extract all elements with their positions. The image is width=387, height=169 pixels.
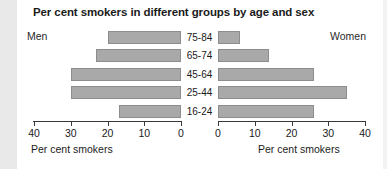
left-axis-tick: [108, 121, 109, 126]
bar-women-16-24: [218, 105, 314, 118]
right-axis-tick: [292, 121, 293, 126]
chart-figure: Per cent smokers in different groups by …: [0, 0, 387, 169]
chart-row: 45-64: [0, 66, 387, 84]
right-axis-tick: [255, 121, 256, 126]
right-axis-tick-label: 40: [359, 127, 371, 139]
bar-women-75-84: [218, 31, 240, 44]
bar-men-75-84: [108, 31, 182, 44]
right-axis-tick-label: 20: [286, 127, 298, 139]
left-axis-tick-label: 30: [65, 127, 77, 139]
bar-women-45-64: [218, 68, 314, 81]
left-axis-tick: [181, 121, 182, 126]
left-axis-tick-label: 0: [178, 127, 184, 139]
right-axis-tick: [218, 121, 219, 126]
bar-men-25-44: [71, 86, 181, 99]
age-group-label: 75-84: [183, 31, 216, 44]
right-axis-tick-label: 30: [322, 127, 334, 139]
bar-men-45-64: [71, 68, 181, 81]
left-axis-tick: [144, 121, 145, 126]
bar-women-65-74: [218, 49, 269, 62]
right-axis-caption: Per cent smokers: [258, 143, 340, 155]
right-axis-tick-label: 10: [249, 127, 261, 139]
age-group-label: 25-44: [183, 86, 216, 99]
left-axis-tick-label: 10: [138, 127, 150, 139]
right-axis-tick-label: 0: [215, 127, 221, 139]
bar-women-25-44: [218, 86, 347, 99]
left-axis-tick: [34, 121, 35, 126]
age-group-label: 16-24: [183, 105, 216, 118]
right-axis-tick: [365, 121, 366, 126]
chart-row: 65-74: [0, 47, 387, 65]
left-axis-tick-label: 20: [102, 127, 114, 139]
bar-men-65-74: [96, 49, 181, 62]
left-axis-tick-label: 40: [28, 127, 40, 139]
chart-title: Per cent smokers in different groups by …: [33, 6, 314, 18]
bar-men-16-24: [119, 105, 181, 118]
chart-row: 25-44: [0, 84, 387, 102]
chart-row: 75-84: [0, 29, 387, 47]
right-axis-tick: [328, 121, 329, 126]
plot-area: 75-8465-7445-6425-4416-24: [0, 29, 387, 121]
left-axis-caption: Per cent smokers: [31, 143, 113, 155]
chart-row: 16-24: [0, 103, 387, 121]
age-group-label: 45-64: [183, 68, 216, 81]
age-group-label: 65-74: [183, 49, 216, 62]
left-axis-tick: [71, 121, 72, 126]
